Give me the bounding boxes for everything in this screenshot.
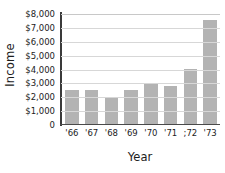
bar — [164, 86, 177, 124]
x-tick-label: '73 — [200, 128, 220, 138]
x-tick-label: '68 — [102, 128, 122, 138]
y-tick-label: $1,000 — [25, 107, 55, 116]
y-tick-label: $2,000 — [25, 93, 55, 102]
x-tick-label: ;72 — [181, 128, 201, 138]
y-tick-label: $3,000 — [25, 79, 55, 88]
x-tick-label: '71 — [161, 128, 181, 138]
gridline — [61, 111, 220, 112]
x-tick-label: '67 — [82, 128, 102, 138]
y-axis-tick-labels: $8,000$7,000$6,000$5,000$4,000$3,000$2,0… — [18, 14, 58, 125]
x-axis-title: Year — [60, 150, 220, 164]
gridline — [61, 42, 220, 43]
y-tick-label: $8,000 — [25, 10, 55, 19]
y-tick-label: $5,000 — [25, 51, 55, 60]
y-tick-label: $6,000 — [25, 38, 55, 47]
gridline — [61, 97, 220, 98]
gridline — [61, 83, 220, 84]
x-tick-label: '66 — [62, 128, 82, 138]
x-tick-label: '69 — [121, 128, 141, 138]
bar — [85, 90, 98, 124]
y-axis-title-text: Income — [3, 43, 17, 87]
bar — [144, 83, 157, 124]
y-axis-title: Income — [2, 0, 18, 130]
x-axis-baseline — [60, 124, 220, 125]
y-tick-label: 0 — [50, 121, 55, 130]
x-axis-tick-labels: '66'67'68'69'70'71;72'73 — [62, 128, 220, 138]
bar — [203, 20, 216, 124]
gridline — [61, 14, 220, 15]
y-tick-label: $4,000 — [25, 65, 55, 74]
y-tick-label: $7,000 — [25, 24, 55, 33]
gridline — [61, 28, 220, 29]
gridline — [61, 56, 220, 57]
bar — [124, 90, 137, 124]
bar — [65, 90, 78, 124]
gridline — [61, 70, 220, 71]
plot-area — [60, 14, 220, 125]
bar-chart: Income $8,000$7,000$6,000$5,000$4,000$3,… — [0, 0, 225, 173]
x-tick-label: '70 — [141, 128, 161, 138]
